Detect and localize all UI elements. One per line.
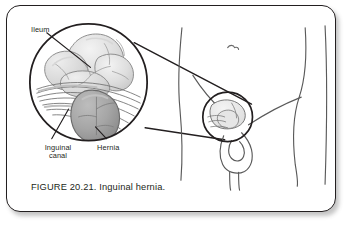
figure-card: Ileum Inguinal canal Hernia FIGURE 20.21…	[6, 5, 336, 212]
navel-mark-icon	[228, 45, 239, 49]
label-hernia: Hernia	[97, 144, 119, 152]
human-groin-outline-icon	[179, 26, 327, 190]
label-ileum: Ileum	[31, 26, 50, 34]
label-inguinal-canal: Inguinal canal	[34, 144, 82, 161]
hernia-site-circle-icon	[203, 92, 253, 142]
magnifier-circle-icon	[30, 24, 147, 144]
figure-caption: FIGURE 20.21. Inguinal hernia.	[31, 182, 165, 192]
illustration-canvas	[7, 6, 335, 211]
inguinal-hernia-illustration	[7, 6, 335, 211]
